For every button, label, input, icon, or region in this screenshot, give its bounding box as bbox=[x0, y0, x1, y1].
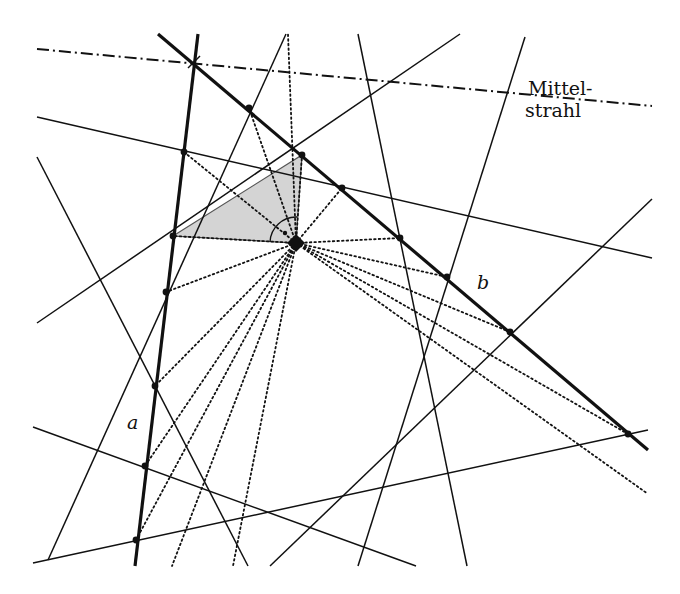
intersection-point-icon bbox=[339, 185, 346, 192]
intersection-point-icon bbox=[133, 537, 140, 544]
intersection-point-icon bbox=[163, 289, 170, 296]
intersection-point-icon bbox=[625, 431, 632, 438]
mittelstrahl-label-line2: strahl bbox=[525, 100, 581, 120]
intersection-point-icon bbox=[246, 105, 253, 112]
thin-line bbox=[37, 34, 460, 323]
line-a-label: a bbox=[127, 412, 138, 432]
dotted-ray bbox=[172, 243, 296, 566]
intersection-point-icon bbox=[170, 233, 177, 240]
dotted-ray bbox=[155, 243, 296, 386]
shaded-triangle bbox=[173, 155, 302, 243]
dotted-ray bbox=[296, 238, 400, 243]
intersection-point-icon bbox=[507, 329, 514, 336]
dotted-ray bbox=[145, 243, 296, 466]
shaded-triangle-polygon bbox=[173, 155, 302, 243]
thin-line bbox=[270, 199, 652, 566]
thick-line-a bbox=[135, 34, 198, 566]
intersection-point-icon bbox=[142, 463, 149, 470]
mittelstrahl-label-line1: Mittel- bbox=[528, 78, 593, 98]
intersection-point-icon bbox=[444, 274, 451, 281]
dotted-ray bbox=[296, 243, 648, 494]
thin-line bbox=[33, 430, 648, 563]
intersection-point-icon bbox=[397, 235, 404, 242]
thin-line bbox=[358, 34, 467, 566]
line-b-label: b bbox=[477, 272, 489, 292]
intersection-point-icon bbox=[299, 152, 306, 159]
dotted-ray bbox=[296, 243, 628, 434]
intersection-point-icon bbox=[152, 383, 159, 390]
dotted-ray bbox=[136, 243, 296, 540]
dotted-ray bbox=[166, 243, 296, 292]
dotted-ray bbox=[296, 188, 342, 243]
thin-line bbox=[33, 427, 416, 566]
intersection-point-icon bbox=[181, 149, 188, 156]
